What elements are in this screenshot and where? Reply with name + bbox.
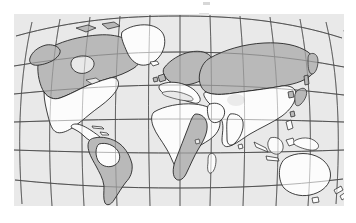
region-arabian-peninsula (207, 103, 224, 122)
figure-root (0, 0, 356, 223)
region-australia (279, 154, 330, 196)
region-african-lake (195, 139, 200, 144)
region-sri-lanka (238, 144, 243, 149)
region-tasmania (312, 197, 319, 203)
world-map-svg (14, 14, 344, 206)
region-hudson-bay (71, 56, 94, 74)
scan-artifact-icon (203, 2, 210, 5)
print-smudge-icon (227, 94, 245, 106)
world-map-plate (14, 14, 344, 206)
region-korea (288, 91, 294, 98)
region-ireland (153, 77, 158, 82)
region-taiwan (290, 111, 295, 117)
